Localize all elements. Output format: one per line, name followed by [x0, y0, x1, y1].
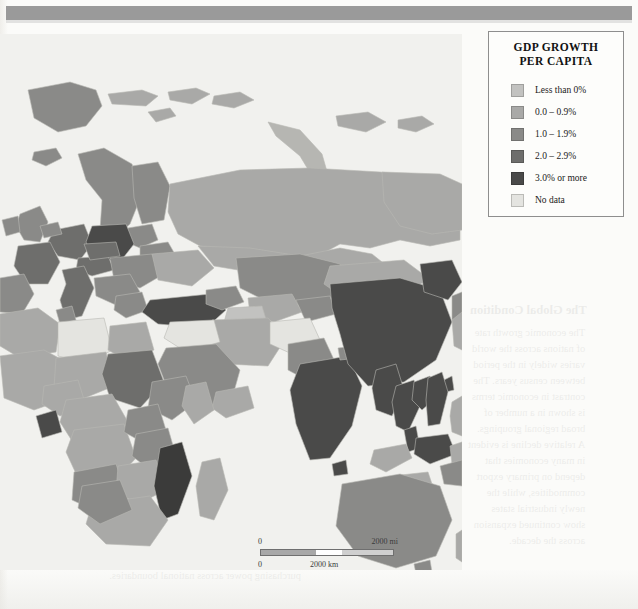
scale-bar-miles-labels: 0 2000 mi [258, 537, 398, 548]
legend-swatch-icon [511, 172, 524, 185]
choropleth-map-svg [0, 34, 462, 570]
legend-item[interactable]: 1.0 – 1.9% [511, 123, 623, 145]
legend-item-label: 3.0% or more [535, 173, 587, 183]
legend-item-label: 2.0 – 2.9% [535, 151, 576, 161]
legend-item[interactable]: No data [511, 189, 623, 211]
region-philippines [450, 396, 462, 436]
scale-segment-1 [261, 550, 316, 555]
scale-miles-left-label: 0 [258, 537, 262, 546]
scale-bar-graphic [260, 549, 394, 556]
legend-swatch-icon [511, 150, 524, 163]
legend-items: Less than 0% 0.0 – 0.9% 1.0 – 1.9% 2.0 –… [511, 79, 623, 211]
scale-km-right-label: 2000 km [310, 560, 338, 569]
scale-tick-right [393, 549, 394, 556]
world-map-panel [0, 34, 462, 570]
legend-item[interactable]: 3.0% or more [511, 167, 623, 189]
legend-swatch-icon [511, 106, 524, 119]
header-band [6, 6, 632, 20]
legend-item-label: 1.0 – 1.9% [535, 129, 576, 139]
legend-title-line1: GDP GROWTH [489, 40, 623, 54]
legend-item[interactable]: 2.0 – 2.9% [511, 145, 623, 167]
scale-km-left-label: 0 [258, 560, 262, 569]
legend-item[interactable]: 0.0 – 0.9% [511, 101, 623, 123]
scale-segment-2 [316, 550, 341, 555]
legend-item-label: 0.0 – 0.9% [535, 107, 576, 117]
legend-title-line2: PER CAPITA [489, 54, 623, 68]
legend-item-label: No data [535, 195, 565, 205]
scale-tick-left [260, 549, 261, 556]
bleed-through-text-body: The economic growth rate of nations acro… [468, 325, 585, 549]
map-legend: GDP GROWTH PER CAPITA Less than 0% 0.0 –… [488, 31, 624, 217]
bleed-through-text-mid: The Global Condition [470, 300, 587, 320]
page-bottom-fade [0, 569, 638, 609]
scale-segment-3 [342, 550, 393, 555]
legend-swatch-icon [511, 84, 524, 97]
legend-swatch-icon [511, 128, 524, 141]
legend-item[interactable]: Less than 0% [511, 79, 623, 101]
legend-swatch-icon [511, 194, 524, 207]
header-band-shadow [6, 20, 632, 23]
region-new-zealand [456, 530, 462, 562]
legend-item-label: Less than 0% [535, 85, 586, 95]
map-scale-bar: 0 2000 mi 0 2000 km [258, 537, 398, 569]
scale-miles-right-label: 2000 mi [372, 537, 398, 546]
legend-title: GDP GROWTH PER CAPITA [489, 40, 623, 68]
